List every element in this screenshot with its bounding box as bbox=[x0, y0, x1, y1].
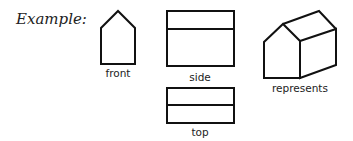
front-view-shape bbox=[101, 11, 135, 64]
represents-label: represents bbox=[272, 82, 328, 94]
side-label: side bbox=[189, 71, 211, 83]
front-label: front bbox=[106, 67, 131, 79]
side-view-shape bbox=[167, 11, 234, 66]
orthographic-diagram bbox=[0, 0, 353, 141]
isometric-house-shape bbox=[264, 11, 336, 78]
top-view-shape bbox=[167, 88, 234, 123]
top-label: top bbox=[191, 126, 208, 138]
